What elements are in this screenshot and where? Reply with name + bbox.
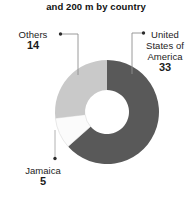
callout-others-value: 14 [6, 40, 60, 51]
slice-others[interactable] [55, 60, 107, 118]
callout-label-united-states-of-america: United States of America 33 [141, 29, 189, 73]
callout-label-others: Others 14 [6, 29, 60, 51]
callout-label-jamaica: Jamaica 5 [14, 165, 72, 187]
callout-usa-category: United States of America [141, 29, 189, 62]
callout-jamaica-value: 5 [14, 176, 72, 187]
callout-usa-value: 33 [141, 62, 189, 73]
leader-line-others [59, 32, 78, 75]
leader-line-jamaica [53, 130, 56, 160]
donut-chart-figure: and 200 m by country Others 14 United St… [0, 0, 192, 203]
